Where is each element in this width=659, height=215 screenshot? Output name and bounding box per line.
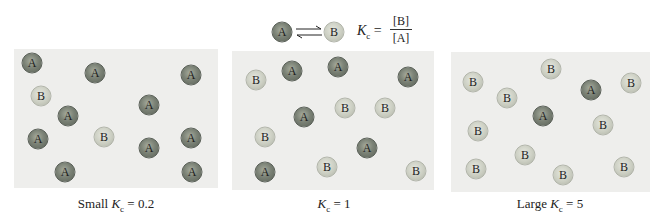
molecule-A-sphere: A xyxy=(28,129,49,150)
molecule-B-sphere: B xyxy=(621,73,642,94)
molecule-B-sphere: B xyxy=(593,115,614,136)
molecule-A-sphere: A xyxy=(282,61,303,82)
kc-expression: Kc = xyxy=(357,23,382,41)
caption-k: K xyxy=(111,196,120,211)
kc-numerator: [B] xyxy=(390,14,412,28)
kc-subscript: c xyxy=(366,31,370,41)
molecule-A-sphere: A xyxy=(398,67,419,88)
molecule-A-sphere: A xyxy=(182,162,203,183)
kc-equals: = xyxy=(374,23,382,38)
molecule-B-sphere: B xyxy=(515,145,536,166)
molecule-A-sphere: A xyxy=(85,63,106,84)
molecule-A-sphere: A xyxy=(58,106,79,127)
caption-value: = 1 xyxy=(330,196,350,211)
molecule-B-sphere: B xyxy=(497,88,518,109)
molecule-B-sphere: B xyxy=(94,127,115,148)
molecule-B-sphere: B xyxy=(466,159,487,180)
reactant-label: A xyxy=(278,25,287,40)
molecule-B-sphere: B xyxy=(406,161,427,182)
molecule-B-sphere: B xyxy=(335,98,356,119)
kc-denominator: [A] xyxy=(390,31,412,45)
molecule-A-sphere: A xyxy=(357,138,378,159)
equilibrium-header: A B Kc = [B] [A] xyxy=(0,0,659,48)
caption-large-kc: Large Kc = 5 xyxy=(517,196,583,214)
caption-prefix: Large xyxy=(517,196,550,211)
molecule-B-sphere: B xyxy=(375,98,396,119)
caption-prefix: Small xyxy=(78,196,112,211)
molecule-A-sphere: A xyxy=(139,95,160,116)
molecule-B-sphere: B xyxy=(614,157,635,178)
caption-small-kc: Small Kc = 0.2 xyxy=(78,196,154,214)
molecule-A-sphere: A xyxy=(255,162,276,183)
caption-kc-1: Kc = 1 xyxy=(317,196,350,214)
equilibrium-arrows-icon xyxy=(294,25,324,39)
caption-value: = 5 xyxy=(563,196,583,211)
molecule-B-sphere: B xyxy=(31,86,52,107)
fraction-bar xyxy=(390,29,412,30)
molecule-A-sphere: A xyxy=(533,106,554,127)
molecule-A-sphere: A xyxy=(139,138,160,159)
molecule-A-sphere: A xyxy=(181,128,202,149)
molecule-A-sphere: A xyxy=(55,162,76,183)
molecule-A-sphere: A xyxy=(22,53,43,74)
molecule-B-sphere: B xyxy=(553,165,574,186)
caption-k: K xyxy=(550,196,559,211)
molecule-B-sphere: B xyxy=(255,127,276,148)
molecule-B-sphere: B xyxy=(317,157,338,178)
molecule-A-sphere: A xyxy=(328,57,349,78)
molecule-B-sphere: B xyxy=(541,59,562,80)
kc-symbol: K xyxy=(357,23,366,38)
molecule-B-sphere: B xyxy=(468,121,489,142)
kc-fraction: [B] [A] xyxy=(390,14,412,45)
molecule-A-sphere: A xyxy=(581,80,602,101)
product-B-sphere: B xyxy=(324,22,345,43)
caption-k: K xyxy=(317,196,326,211)
molecule-B-sphere: B xyxy=(246,70,267,91)
molecule-B-sphere: B xyxy=(463,72,484,93)
product-label: B xyxy=(330,25,338,40)
caption-value: = 0.2 xyxy=(124,196,154,211)
reactant-A-sphere: A xyxy=(272,22,293,43)
molecule-A-sphere: A xyxy=(181,65,202,86)
molecule-A-sphere: A xyxy=(294,107,315,128)
